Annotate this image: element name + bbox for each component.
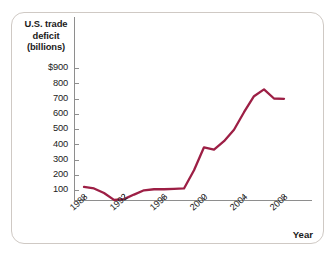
- y-axis-tick-mark: [74, 114, 79, 115]
- chart-plot-area: U.S. trade deficit (billions) $900800700…: [0, 0, 335, 259]
- y-axis-tick-mark: [74, 83, 79, 84]
- y-axis-tick-mark: [74, 175, 79, 176]
- y-axis-tick-mark: [74, 190, 79, 191]
- y-axis-tick-mark: [74, 160, 79, 161]
- y-axis-tick-mark: [74, 68, 79, 69]
- x-axis-title: Year: [293, 229, 313, 240]
- y-axis-tick-mark: [74, 129, 79, 130]
- y-axis-tick-mark: [74, 144, 79, 145]
- trade-deficit-line: [84, 89, 284, 200]
- data-series-layer: [0, 0, 335, 259]
- y-axis-tick-mark: [74, 99, 79, 100]
